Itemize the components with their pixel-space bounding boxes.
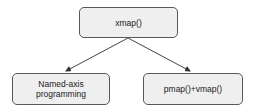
node-named-axis-label-line-1: Named-axis <box>36 79 86 89</box>
edge-root-to-right <box>128 38 190 71</box>
node-xmap-label: xmap() <box>115 18 141 28</box>
node-xmap: xmap() <box>79 7 178 38</box>
edge-root-to-left <box>66 38 128 71</box>
node-named-axis-programming: Named-axis programming <box>12 73 110 105</box>
node-pmap-vmap-label: pmap()+vmap() <box>164 84 222 94</box>
node-pmap-vmap: pmap()+vmap() <box>143 73 243 105</box>
node-named-axis-label-line-2: programming <box>36 89 86 99</box>
